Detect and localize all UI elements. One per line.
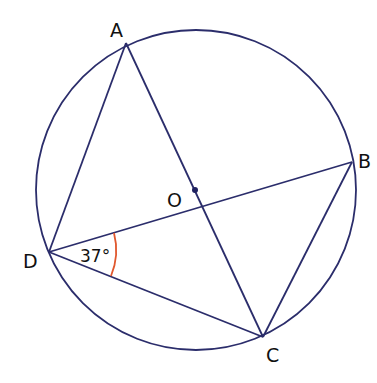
segment-ad — [49, 43, 126, 252]
label-a: A — [110, 19, 123, 41]
segment-bc — [263, 162, 352, 337]
label-d: D — [23, 250, 38, 272]
label-o: O — [167, 189, 182, 211]
angle-label: 37° — [80, 246, 110, 266]
circle-geometry-diagram: A B C D O 37° — [0, 0, 377, 383]
label-c: C — [266, 344, 279, 366]
center-point — [192, 187, 198, 193]
segment-db — [49, 162, 352, 252]
angle-arc — [111, 233, 116, 276]
label-b: B — [358, 150, 371, 172]
